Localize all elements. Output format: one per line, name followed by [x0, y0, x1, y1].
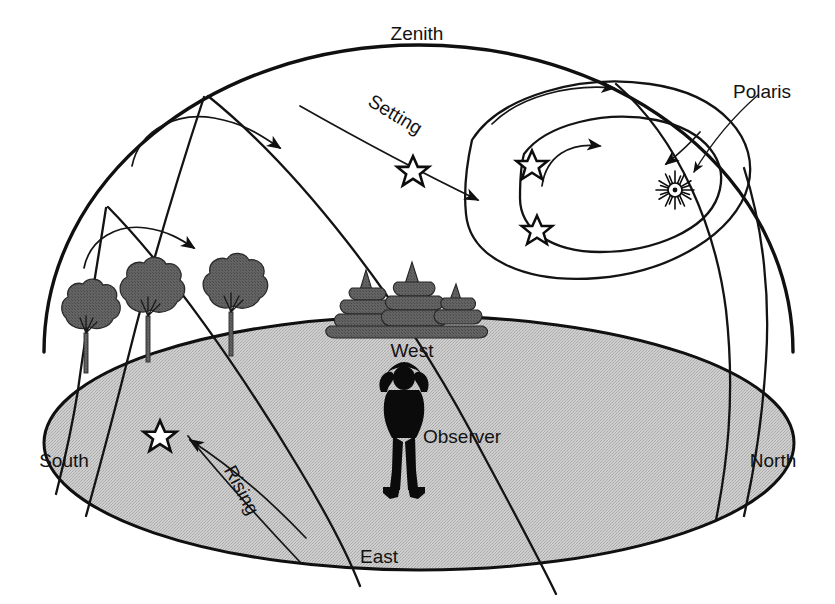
tree-deciduous-1: [62, 279, 121, 373]
circumpolar-star-paths: [465, 82, 750, 279]
conifer-ground-row: [326, 326, 488, 338]
label-zenith: Zenith: [391, 23, 444, 44]
label-polaris: Polaris: [733, 81, 791, 102]
tree-group-conifer: [326, 262, 488, 338]
conifer-3: [434, 284, 482, 324]
polaris-leader-arrow: [694, 95, 758, 172]
polaris-starburst-icon: [656, 171, 694, 209]
celestial-sphere-diagram: Zenith Polaris Setting Rising West East …: [0, 0, 835, 604]
circumpolar-inner-arrow: [542, 145, 600, 186]
label-north: North: [750, 450, 796, 471]
label-south: South: [39, 450, 89, 471]
label-setting: Setting: [365, 90, 427, 138]
star-setting-path: [397, 156, 429, 185]
label-east: East: [360, 546, 399, 567]
label-west: West: [391, 340, 435, 361]
figure-canvas: Zenith Polaris Setting Rising West East …: [0, 0, 835, 604]
circumpolar-inner-loop: [520, 117, 721, 252]
label-observer: Observer: [423, 426, 502, 447]
rising-arc-arrows: [84, 117, 280, 268]
